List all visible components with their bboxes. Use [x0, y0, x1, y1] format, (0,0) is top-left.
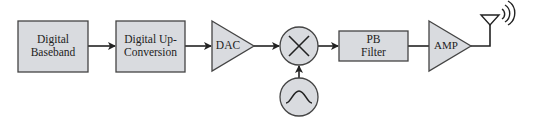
- block-amp: [429, 21, 471, 71]
- antenna-icon: [481, 1, 515, 25]
- block-mixer: [280, 27, 318, 65]
- block-digital-up-conversion: [116, 21, 185, 72]
- radio-waves-icon: [502, 1, 515, 25]
- block-digital-baseband: [18, 21, 88, 72]
- block-oscillator: [280, 78, 318, 116]
- block-dac: [212, 21, 254, 71]
- block-pb-filter: [339, 31, 408, 61]
- transmitter-block-diagram: [0, 0, 534, 129]
- edge-amp-to-antenna: [471, 25, 490, 46]
